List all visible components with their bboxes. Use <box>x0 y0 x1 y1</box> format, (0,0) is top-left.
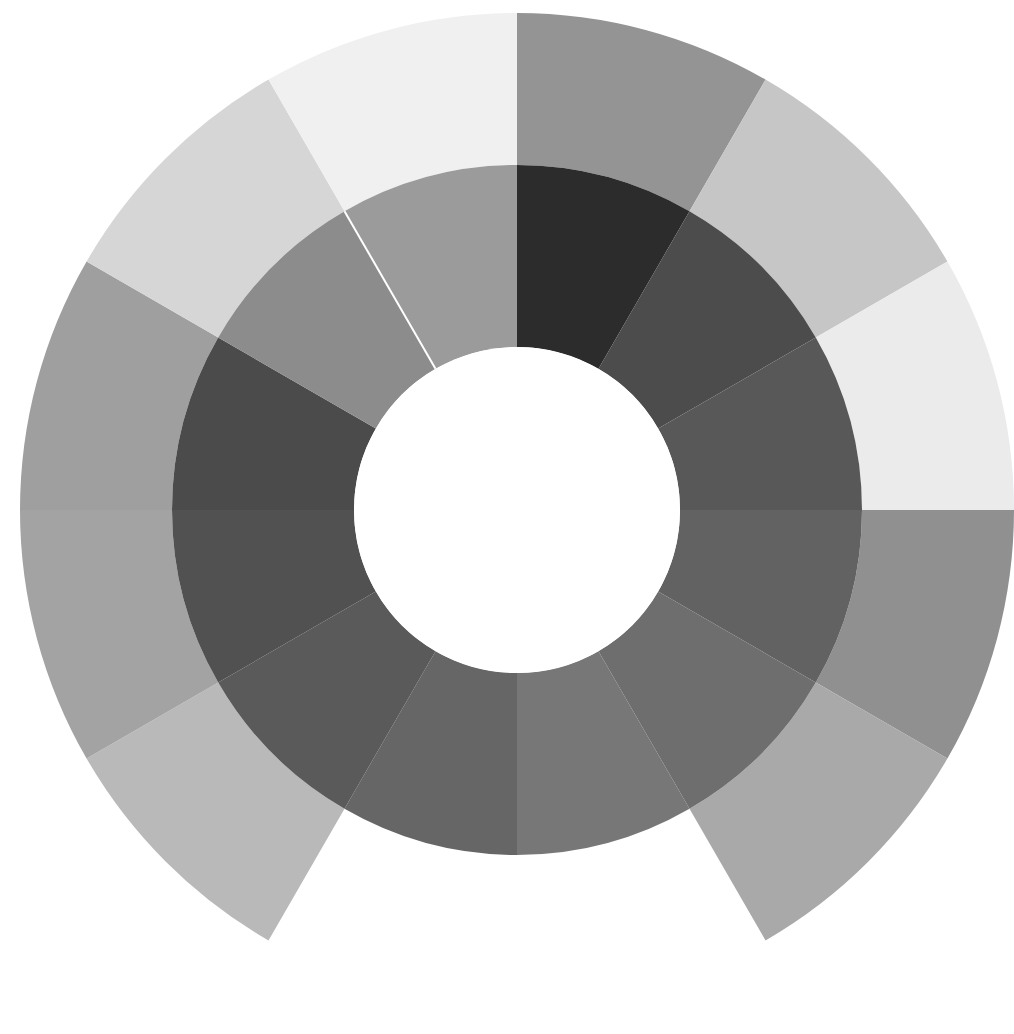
spiral-value-wheel: Outer ring — 0°–30° — #949494Outer ring … <box>0 0 1014 1034</box>
center-hub <box>354 347 680 673</box>
figure-root: Outer ring — 0°–30° — #949494Outer ring … <box>0 0 1014 1034</box>
